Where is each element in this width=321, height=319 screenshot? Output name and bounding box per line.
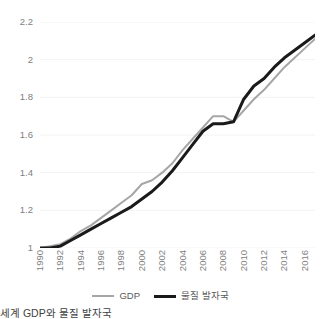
line-swatch-gdp-icon xyxy=(92,295,114,297)
x-tick-label-2000: 2000 xyxy=(137,250,147,271)
series-layer xyxy=(40,35,315,248)
chart-legend: GDP 물질 발자국 xyxy=(0,288,321,304)
x-axis: 1990199219941996199820002002200420062008… xyxy=(40,250,315,284)
series-line-물질 발자국 xyxy=(40,35,315,248)
x-tick-label-1994: 1994 xyxy=(76,250,86,271)
x-tick-label-2014: 2014 xyxy=(279,250,289,271)
y-axis: 11.21.41.61.822.2 xyxy=(0,22,36,248)
x-tick-label-2016: 2016 xyxy=(300,250,310,271)
y-tick-label-1.2: 1.2 xyxy=(20,206,33,216)
y-tick-label-2: 2 xyxy=(28,55,33,65)
line-swatch-material-footprint-icon xyxy=(154,295,176,298)
series-line-GDP xyxy=(40,39,315,248)
legend-item-material-footprint[interactable]: 물질 발자국 xyxy=(154,291,229,301)
chart-figure: 11.21.41.61.822.2 1990199219941996199820… xyxy=(0,0,321,319)
chart-canvas xyxy=(40,22,315,248)
x-tick-label-2002: 2002 xyxy=(157,250,167,271)
x-tick-label-1992: 1992 xyxy=(55,250,65,271)
figure-caption: 세계 GDP와 물질 발자국 xyxy=(0,307,321,319)
x-tick-label-1990: 1990 xyxy=(35,250,45,271)
y-tick-label-1.4: 1.4 xyxy=(20,168,33,178)
x-tick-label-2010: 2010 xyxy=(239,250,249,271)
x-tick-label-2008: 2008 xyxy=(218,250,228,271)
y-tick-label-2.2: 2.2 xyxy=(20,17,33,27)
y-tick-label-1: 1 xyxy=(28,243,33,253)
x-tick-label-2004: 2004 xyxy=(178,250,188,271)
legend-label-gdp: GDP xyxy=(119,291,140,301)
y-tick-label-1.8: 1.8 xyxy=(20,93,33,103)
plot-area xyxy=(40,22,315,248)
gridlines xyxy=(40,22,315,248)
x-tick-label-2012: 2012 xyxy=(259,250,269,271)
x-tick-label-1998: 1998 xyxy=(116,250,126,271)
x-tick-label-1996: 1996 xyxy=(96,250,106,271)
x-tick-label-2006: 2006 xyxy=(198,250,208,271)
y-tick-label-1.6: 1.6 xyxy=(20,130,33,140)
legend-item-gdp[interactable]: GDP xyxy=(92,291,140,301)
legend-label-material-footprint: 물질 발자국 xyxy=(181,291,229,301)
